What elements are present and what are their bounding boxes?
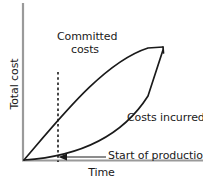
x-axis-label: Time <box>0 167 203 179</box>
committed-costs-annotation-line1: Committed <box>57 31 115 43</box>
start-of-production-annotation: Start of production <box>108 150 203 162</box>
cost-commitment-chart: Total cost Time Committed costs Costs in… <box>0 0 203 184</box>
costs-incurred-curve <box>24 50 163 160</box>
committed-costs-annotation-line2: costs <box>57 44 99 56</box>
costs-incurred-annotation: Costs incurred <box>127 112 203 124</box>
y-axis-label: Total cost <box>9 49 21 119</box>
